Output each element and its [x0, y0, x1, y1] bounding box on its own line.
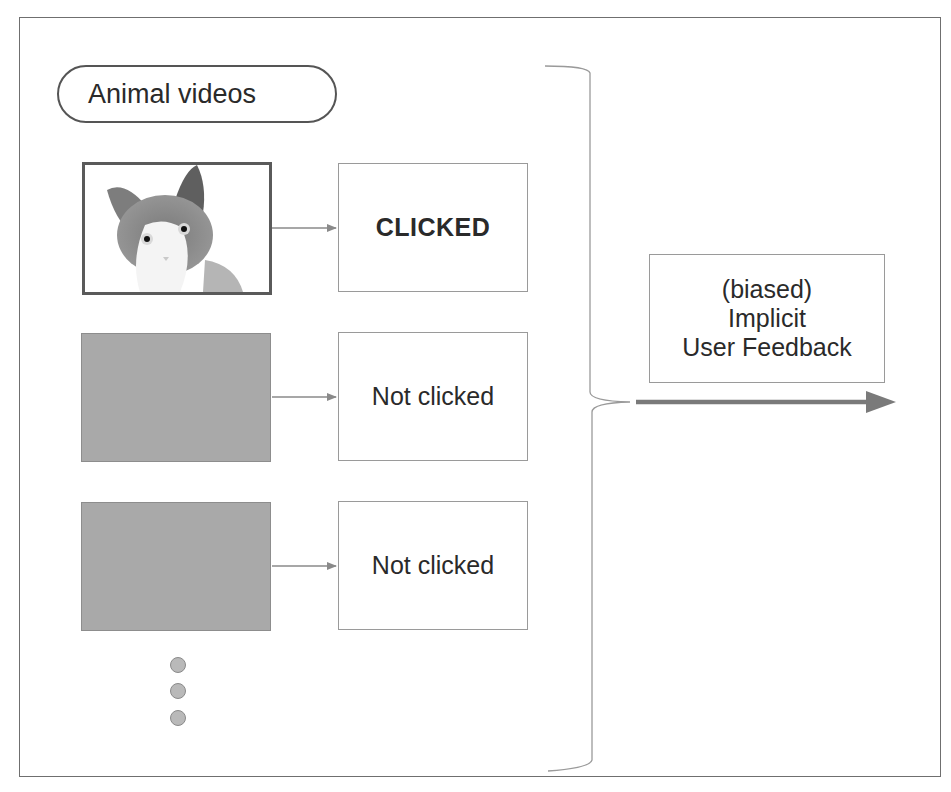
outcome-box-clicked: CLICKED [338, 163, 528, 292]
ellipsis-dot-icon [170, 710, 186, 726]
video-thumbnail-cat [82, 162, 272, 295]
feedback-line-3: User Feedback [682, 333, 852, 362]
outcome-box-not-clicked: Not clicked [338, 332, 528, 461]
implicit-feedback-box: (biased) Implicit User Feedback [649, 254, 885, 383]
video-thumbnail-placeholder [81, 333, 271, 462]
outcome-label: Not clicked [372, 382, 494, 411]
outcome-label: Not clicked [372, 551, 494, 580]
category-label: Animal videos [88, 79, 256, 110]
category-pill: Animal videos [57, 65, 337, 123]
feedback-line-2: Implicit [728, 304, 806, 333]
ellipsis-dot-icon [170, 683, 186, 699]
ellipsis-dot-icon [170, 657, 186, 673]
outcome-label: CLICKED [376, 213, 491, 242]
video-thumbnail-placeholder [81, 502, 271, 631]
feedback-line-1: (biased) [722, 275, 812, 304]
cat-image [85, 165, 269, 292]
outcome-box-not-clicked: Not clicked [338, 501, 528, 630]
